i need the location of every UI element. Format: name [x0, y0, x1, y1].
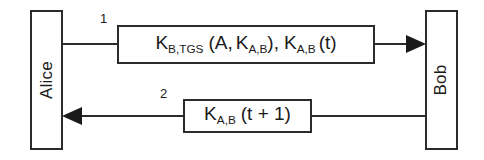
message-1-line-left	[63, 43, 118, 45]
message-2-line-left	[72, 115, 184, 117]
actor-label-alice: Alice	[37, 61, 57, 99]
msg1-key1: K	[155, 32, 168, 53]
message-2-line-right	[312, 115, 425, 117]
msg1-key2-subscript: A,B	[248, 41, 267, 54]
message-2-sequence-number: 2	[160, 86, 167, 101]
msg1-key2: K	[236, 32, 249, 53]
msg2-key1: K	[204, 103, 217, 124]
arrowhead-left-icon	[62, 107, 82, 125]
message-1-line-right	[375, 43, 408, 45]
msg1-key1-subscript: B,TGS	[168, 41, 203, 54]
actor-box-bob: Bob	[425, 10, 458, 150]
msg1-key3: K	[284, 32, 297, 53]
protocol-diagram: Alice Bob 1 KB,TGS(A,KA,B),KA,B(t) 2 KA,…	[0, 0, 484, 160]
message-box-1: KB,TGS(A,KA,B),KA,B(t)	[117, 25, 375, 64]
message-1-sequence-number: 1	[100, 11, 107, 26]
msg1-open-paren: (A,	[208, 32, 232, 53]
msg2-tail: (t + 1)	[241, 103, 291, 124]
msg1-key3-subscript: A,B	[297, 41, 316, 54]
msg1-tail: (t)	[319, 32, 337, 53]
message-box-2: KA,B(t + 1)	[183, 99, 312, 133]
actor-box-alice: Alice	[30, 10, 63, 150]
actor-label-bob: Bob	[432, 65, 452, 96]
msg2-key1-subscript: A,B	[217, 113, 236, 126]
arrowhead-right-icon	[406, 35, 426, 53]
msg1-close-paren: ),	[267, 32, 279, 53]
message-1-formula: KB,TGS(A,KA,B),KA,B(t)	[155, 33, 336, 57]
message-2-formula: KA,B(t + 1)	[204, 104, 291, 128]
